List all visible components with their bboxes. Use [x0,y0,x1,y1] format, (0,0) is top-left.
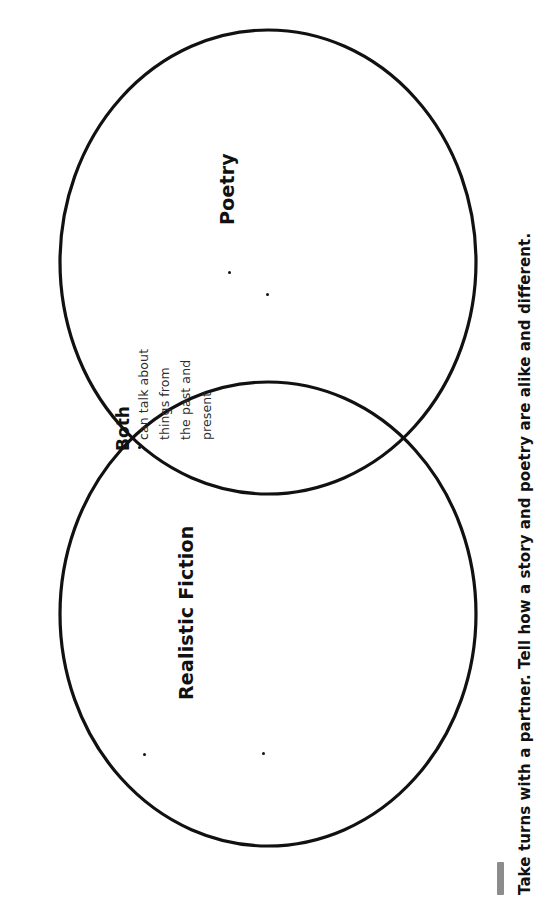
venn-label-poetry: Poetry [216,153,238,225]
overlap-note-line-3: the past and [178,360,193,440]
overlap-note-line-2: things from [157,367,172,440]
overlap-note-line-4: present [199,392,214,440]
venn-circle-realistic-fiction [60,382,476,846]
worksheet-caption: Take turns with a partner. Tell how a st… [516,233,534,895]
overlap-note-line-1: can talk about [136,349,151,440]
venn-label-realistic-fiction: Realistic Fiction [175,526,197,700]
venn-label-both: Both [113,406,133,451]
caption-accent-bar [497,862,504,895]
